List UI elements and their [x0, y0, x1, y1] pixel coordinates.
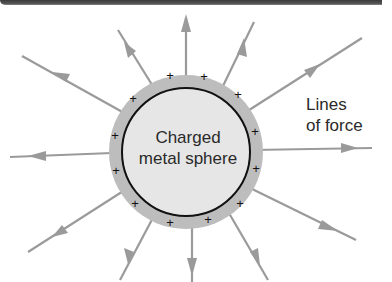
- plus-charge: +: [236, 196, 244, 211]
- sphere-label-line1: Charged: [155, 128, 220, 147]
- plus-charge: +: [252, 161, 260, 176]
- arrow-head-icon: [341, 143, 358, 153]
- sphere-label-line2: metal sphere: [139, 149, 237, 168]
- arrow-head-icon: [187, 258, 197, 276]
- arrow-head-icon: [304, 64, 320, 78]
- field-line-down-left: [120, 212, 156, 280]
- plus-charge: +: [166, 68, 174, 83]
- plus-charge: +: [131, 196, 139, 211]
- charged-sphere-diagram: + + + + + + + + + + + + Charged metal sp…: [0, 0, 392, 282]
- arrow-head-icon: [28, 151, 46, 161]
- field-line-down-right: [226, 208, 268, 280]
- field-line-lower-left: [28, 188, 128, 252]
- plus-charge: +: [111, 128, 119, 143]
- field-line-up-right: [222, 22, 254, 88]
- plus-charge: +: [251, 124, 259, 139]
- plus-charge: +: [200, 69, 208, 84]
- plus-charge: +: [129, 91, 137, 106]
- plus-charge: +: [166, 215, 174, 230]
- arrow-head-icon: [181, 14, 191, 32]
- field-line-upper-left: [22, 56, 126, 114]
- field-line-lower-right: [246, 186, 356, 240]
- field-line-up-left: [118, 30, 154, 88]
- field-label-line1: Lines: [306, 95, 347, 114]
- field-line-left: [10, 153, 112, 157]
- field-label-line2: of force: [306, 116, 363, 135]
- plus-charge: +: [204, 212, 212, 227]
- plus-charge: +: [112, 163, 120, 178]
- plus-charge: +: [234, 87, 242, 102]
